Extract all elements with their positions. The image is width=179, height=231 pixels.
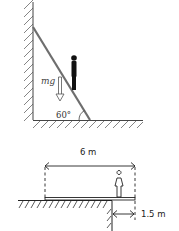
angle-arc: [79, 111, 85, 121]
overhang-label: 1.5 m: [141, 209, 166, 219]
plank: [45, 198, 135, 201]
ground-hatching: [19, 201, 107, 208]
length-label: 6 m: [80, 147, 96, 157]
ladder: [33, 27, 90, 120]
weight-arrow: [56, 77, 64, 101]
floor-hatching: [33, 121, 143, 128]
plank-figure: 6 m: [18, 147, 166, 231]
force-label: mg: [41, 76, 56, 86]
physics-diagram: 60° mg 6 m: [0, 0, 179, 231]
angle-label: 60°: [56, 110, 71, 120]
wall-hatching: [24, 0, 33, 121]
person-on-plank: [115, 171, 123, 198]
overhang-dimension: [113, 201, 135, 220]
person-on-ladder: [71, 55, 77, 90]
ladder-figure: 60° mg: [24, 0, 143, 128]
cliff-hatching: [107, 209, 111, 228]
